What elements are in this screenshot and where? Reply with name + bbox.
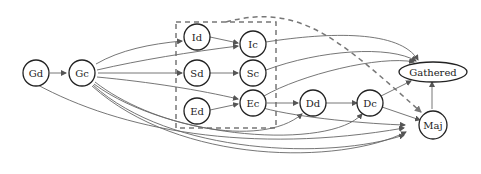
node-dc: Dc [357, 90, 383, 116]
svg-text:Ed: Ed [190, 106, 204, 117]
svg-text:Gc: Gc [75, 68, 89, 79]
node-gc: Gc [69, 60, 95, 86]
svg-text:Gd: Gd [29, 68, 44, 79]
svg-text:Ec: Ec [247, 98, 260, 109]
svg-text:Dc: Dc [363, 98, 377, 109]
node-gd: Gd [23, 60, 49, 86]
svg-text:Sd: Sd [190, 68, 204, 79]
node-ed: Ed [184, 98, 210, 124]
node-ic: Ic [240, 31, 266, 57]
svg-text:Dd: Dd [306, 98, 321, 109]
dependency-diagram: Gd Gc Id Ic Sd Sc Ed Ec Dd Dc Gathered [0, 0, 481, 174]
node-sc: Sc [240, 60, 266, 86]
node-gathered: Gathered [399, 62, 467, 82]
node-sd: Sd [184, 60, 210, 86]
svg-text:Sc: Sc [247, 68, 260, 79]
svg-text:Ic: Ic [248, 39, 258, 50]
svg-text:Maj: Maj [423, 120, 442, 131]
node-id: Id [184, 24, 210, 50]
node-maj: Maj [419, 111, 447, 139]
node-ec: Ec [240, 90, 266, 116]
svg-text:Id: Id [192, 32, 203, 43]
svg-text:Gathered: Gathered [409, 67, 457, 78]
node-dd: Dd [300, 90, 326, 116]
